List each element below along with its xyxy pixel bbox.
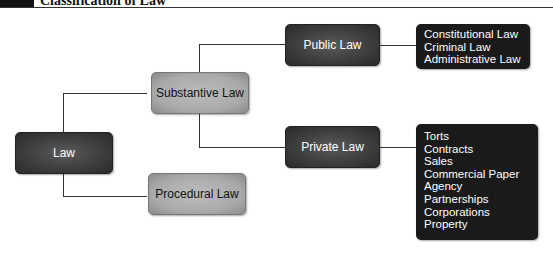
connector (378, 147, 416, 148)
list-item: Partnerships (424, 193, 530, 206)
connector (378, 45, 416, 46)
list-item: Contracts (424, 143, 530, 156)
node-substantive-law: Substantive Law (151, 72, 249, 114)
list-item: Constitutional Law (424, 28, 522, 41)
list-item: Agency (424, 180, 530, 193)
node-public-law: Public Law (285, 24, 380, 66)
connector (63, 196, 147, 197)
list-item: Property (424, 218, 530, 231)
list-item: Sales (424, 155, 530, 168)
public-law-list: Constitutional Law Criminal Law Administ… (416, 24, 530, 69)
node-label: Procedural Law (155, 187, 238, 201)
connector (199, 147, 285, 148)
node-label: Private Law (301, 140, 364, 154)
list-item: Administrative Law (424, 53, 522, 66)
list-item: Torts (424, 130, 530, 143)
list-item: Corporations (424, 206, 530, 219)
list-item: Commercial Paper (424, 168, 530, 181)
connector (199, 112, 200, 147)
connector (199, 44, 285, 45)
node-law: Law (15, 132, 113, 174)
node-label: Substantive Law (156, 86, 244, 100)
node-procedural-law: Procedural Law (148, 173, 246, 215)
private-law-list: Torts Contracts Sales Commercial Paper A… (416, 124, 538, 240)
header-badge (0, 0, 34, 7)
node-private-law: Private Law (285, 126, 380, 168)
list-item: Criminal Law (424, 41, 522, 54)
node-label: Law (53, 146, 75, 160)
node-label: Public Law (303, 38, 361, 52)
connector (63, 93, 147, 94)
header-rule (0, 7, 553, 8)
connector (199, 44, 200, 74)
